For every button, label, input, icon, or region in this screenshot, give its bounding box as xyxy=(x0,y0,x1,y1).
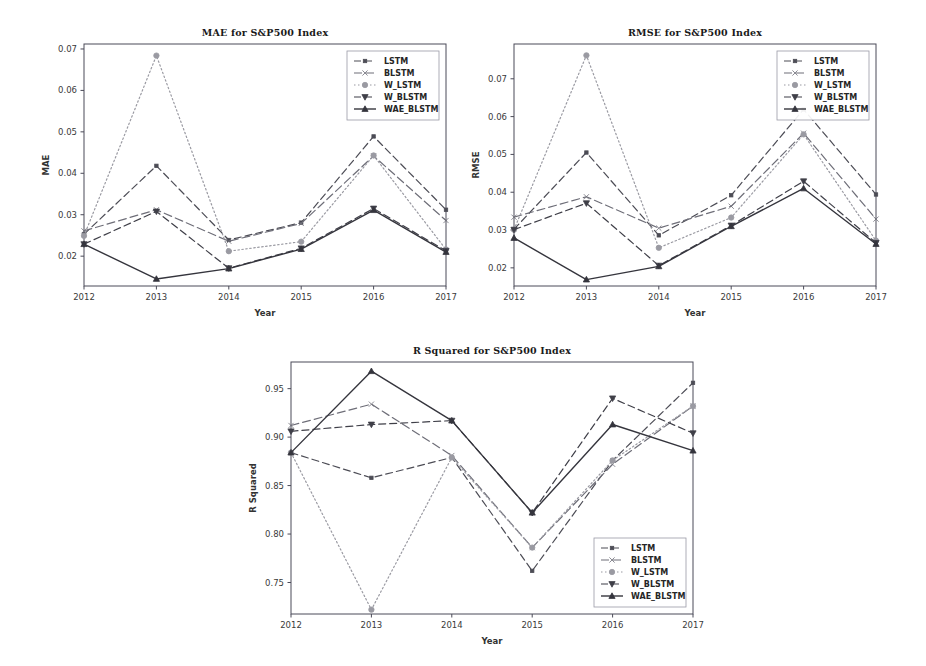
data-point xyxy=(691,381,694,384)
y-tick-label: 0.06 xyxy=(488,112,507,122)
x-tick-label: 2013 xyxy=(146,292,168,302)
series-markers-w_blstm xyxy=(288,396,696,516)
data-point xyxy=(371,153,376,158)
chart-title: MAE for S&P500 Index xyxy=(202,27,329,38)
chart-panel-mae-svg: MAE for S&P500 Index0.020.030.040.050.06… xyxy=(36,22,456,332)
series-markers-blstm xyxy=(81,153,448,244)
data-point xyxy=(656,245,661,250)
series-line-lstm xyxy=(84,136,446,240)
x-tick-label: 2012 xyxy=(73,292,95,302)
data-point xyxy=(155,164,158,167)
legend-label-w_lstm: W_LSTM xyxy=(384,81,421,90)
y-tick-label: 0.05 xyxy=(488,149,507,159)
chart-legend: LSTMBLSTMW_LSTMW_BLSTMWAE_BLSTM xyxy=(594,538,686,607)
legend-label-w_blstm: W_BLSTM xyxy=(814,93,857,102)
legend-label-wae_blstm: WAE_BLSTM xyxy=(814,105,869,114)
legend-marker-sample xyxy=(792,82,797,87)
y-axis-label: RMSE xyxy=(471,151,481,178)
chart-title: RMSE for S&P500 Index xyxy=(628,27,762,38)
series-line-w_blstm xyxy=(291,398,693,512)
data-point xyxy=(801,185,807,191)
series-line-wae_blstm xyxy=(84,210,446,279)
data-point xyxy=(372,135,375,138)
chart-legend: LSTMBLSTMW_LSTMW_BLSTMWAE_BLSTM xyxy=(347,51,439,120)
y-axis-label: MAE xyxy=(41,154,51,175)
legend-label-lstm: LSTM xyxy=(814,57,838,66)
model-evaluation-figure: MAE for S&P500 Index0.020.030.040.050.06… xyxy=(0,0,926,666)
series-line-blstm xyxy=(514,133,876,228)
data-point xyxy=(449,455,454,460)
chart-panel-r-squared-svg: R Squared for S&P500 Index0.750.800.850.… xyxy=(243,340,703,660)
data-point xyxy=(226,248,231,253)
series-markers-lstm xyxy=(82,135,447,242)
data-point xyxy=(801,132,806,137)
legend-label-w_blstm: W_BLSTM xyxy=(384,93,427,102)
x-tick-label: 2015 xyxy=(521,620,543,630)
legend-marker-sample xyxy=(610,546,613,549)
data-point xyxy=(511,235,517,241)
x-axis-label: Year xyxy=(480,636,503,646)
legend-label-w_blstm: W_BLSTM xyxy=(631,580,674,589)
x-axis-label: Year xyxy=(683,308,706,318)
y-tick-label: 0.95 xyxy=(265,384,284,394)
series-line-lstm xyxy=(514,109,876,235)
series-line-w_blstm xyxy=(514,181,876,265)
chart-panel-r-squared: R Squared for S&P500 Index0.750.800.850.… xyxy=(243,340,703,660)
series-markers-blstm xyxy=(288,402,695,551)
data-point xyxy=(370,476,373,479)
x-tick-label: 2014 xyxy=(648,292,670,302)
series-markers-w_blstm xyxy=(511,179,879,269)
x-tick-label: 2017 xyxy=(865,292,887,302)
legend-label-w_lstm: W_LSTM xyxy=(631,568,668,577)
y-tick-label: 0.07 xyxy=(58,44,77,54)
x-tick-label: 2014 xyxy=(218,292,240,302)
legend-label-lstm: LSTM xyxy=(384,57,408,66)
data-point xyxy=(531,569,534,572)
legend-marker-sample xyxy=(609,569,614,574)
x-tick-label: 2017 xyxy=(435,292,457,302)
x-tick-label: 2015 xyxy=(290,292,312,302)
y-tick-label: 0.80 xyxy=(265,529,284,539)
legend-label-blstm: BLSTM xyxy=(384,69,414,78)
y-tick-label: 0.75 xyxy=(265,578,284,588)
data-point xyxy=(729,215,734,220)
data-point xyxy=(730,194,733,197)
data-point xyxy=(874,193,877,196)
y-tick-label: 0.05 xyxy=(58,127,77,137)
series-line-blstm xyxy=(84,156,446,241)
legend-label-blstm: BLSTM xyxy=(814,69,844,78)
legend-marker-sample xyxy=(362,82,367,87)
legend-label-w_lstm: W_LSTM xyxy=(814,81,851,90)
legend-label-wae_blstm: WAE_BLSTM xyxy=(631,592,686,601)
y-axis-label: R Squared xyxy=(248,463,258,513)
x-tick-label: 2014 xyxy=(441,620,463,630)
data-point xyxy=(610,421,616,427)
x-tick-label: 2016 xyxy=(793,292,815,302)
chart-panel-rmse-svg: RMSE for S&P500 Index0.020.030.040.050.0… xyxy=(466,22,886,332)
y-tick-label: 0.03 xyxy=(488,225,507,235)
legend-label-blstm: BLSTM xyxy=(631,556,661,565)
x-tick-label: 2013 xyxy=(576,292,598,302)
legend-label-lstm: LSTM xyxy=(631,544,655,553)
data-point xyxy=(369,607,374,612)
y-tick-label: 0.90 xyxy=(265,432,284,442)
y-tick-label: 0.07 xyxy=(488,74,507,84)
data-point xyxy=(299,239,304,244)
data-point xyxy=(690,431,696,437)
x-tick-label: 2016 xyxy=(602,620,624,630)
legend-marker-sample xyxy=(793,59,796,62)
y-tick-label: 0.02 xyxy=(58,251,77,261)
x-tick-label: 2012 xyxy=(280,620,302,630)
x-tick-label: 2013 xyxy=(361,620,383,630)
data-point xyxy=(369,402,374,407)
legend-label-wae_blstm: WAE_BLSTM xyxy=(384,105,439,114)
y-tick-label: 0.04 xyxy=(488,187,507,197)
chart-panel-rmse: RMSE for S&P500 Index0.020.030.040.050.0… xyxy=(466,22,886,332)
data-point xyxy=(81,233,86,238)
x-tick-label: 2016 xyxy=(363,292,385,302)
y-tick-label: 0.06 xyxy=(58,85,77,95)
x-tick-label: 2015 xyxy=(720,292,742,302)
data-point xyxy=(368,368,374,374)
x-axis-label: Year xyxy=(253,308,276,318)
series-markers-wae_blstm xyxy=(288,368,696,515)
